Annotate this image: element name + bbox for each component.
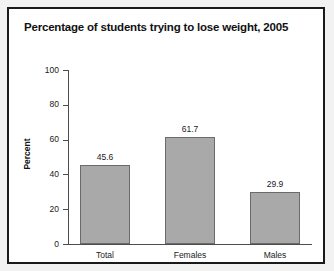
chart-figure-frame: Percentage of students trying to lose we… [7, 7, 325, 264]
y-tick-mark [63, 140, 68, 141]
y-tick-label: 0 [54, 240, 59, 249]
bar-value-label: 29.9 [240, 180, 310, 189]
y-axis-line [68, 70, 69, 245]
plot-area: Percent 020406080100 45.661.729.9 TotalF… [9, 9, 327, 266]
y-tick-label: 80 [50, 100, 59, 109]
y-tick-label: 60 [50, 135, 59, 144]
x-category-label: Females [150, 250, 230, 260]
bar [250, 192, 300, 244]
y-tick-mark [63, 209, 68, 210]
y-axis-title: Percent [22, 124, 32, 184]
y-tick-label: 100 [45, 66, 59, 75]
bar [80, 165, 130, 244]
y-tick-label: 40 [50, 170, 59, 179]
y-tick-mark [63, 105, 68, 106]
bar [165, 137, 215, 244]
y-tick-mark [63, 244, 68, 245]
x-category-label: Total [65, 250, 145, 260]
y-tick-mark [63, 174, 68, 175]
bar-value-label: 45.6 [70, 153, 140, 162]
page-background: Percentage of students trying to lose we… [0, 0, 334, 271]
x-category-label: Males [235, 250, 315, 260]
y-tick-label: 20 [50, 205, 59, 214]
y-tick-mark [63, 70, 68, 71]
bar-value-label: 61.7 [155, 125, 225, 134]
x-axis-line [68, 244, 312, 245]
